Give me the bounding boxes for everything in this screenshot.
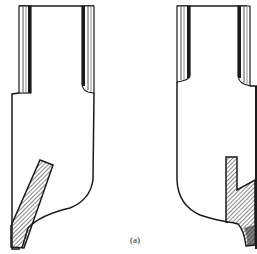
left-insert bbox=[11, 160, 53, 248]
left-tool bbox=[11, 6, 94, 249]
right-tool bbox=[177, 6, 257, 249]
figure-label: (a) bbox=[130, 235, 140, 245]
diagram-canvas bbox=[0, 0, 257, 254]
